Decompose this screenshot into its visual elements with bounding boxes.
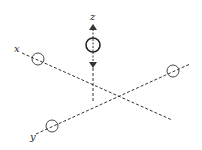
y-atom-circle-near: [46, 120, 58, 132]
y-atom-circle-far: [167, 65, 179, 77]
y-axis-label: y: [29, 131, 36, 142]
x-axis-line: [22, 53, 172, 120]
diagram-canvas: z x y: [0, 0, 202, 150]
z-axis-label: z: [89, 11, 96, 22]
y-axis-line: [36, 64, 190, 134]
x-atom-circle: [32, 53, 44, 65]
axes-diagram: z x y: [0, 0, 202, 150]
x-axis-label: x: [14, 43, 20, 54]
